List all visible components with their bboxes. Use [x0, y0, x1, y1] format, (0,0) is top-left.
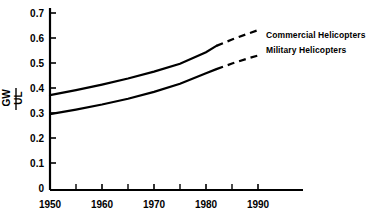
y-tick-label: 0: [38, 183, 44, 194]
y-tick-label: 0.4: [30, 83, 44, 94]
x-tick-label: 1950: [39, 199, 62, 210]
x-tick-label: 1990: [247, 199, 270, 210]
y-axis-title-denominator: GW: [1, 89, 12, 107]
y-tick-label: 0.1: [30, 158, 44, 169]
y-tick-label: 0.7: [30, 8, 44, 19]
legend-item-commercial-helicopters: Commercial Helicopters: [266, 30, 366, 40]
x-tick-label: 1980: [195, 199, 218, 210]
x-tick-label: 1960: [91, 199, 114, 210]
y-axis-title-numerator: UL: [13, 91, 24, 104]
y-tick-label: 0.2: [30, 133, 44, 144]
y-tick-label: 0.3: [30, 108, 44, 119]
x-tick-label: 1970: [143, 199, 166, 210]
y-tick-label: 0.6: [30, 33, 44, 44]
y-tick-label: 0.5: [30, 58, 44, 69]
chart-figure: UL GW 0.7 0.6 0.5 0.4 0.3 0.2 0.1 0: [0, 0, 370, 218]
legend-item-military-helicopters: Military Helicopters: [266, 45, 347, 55]
